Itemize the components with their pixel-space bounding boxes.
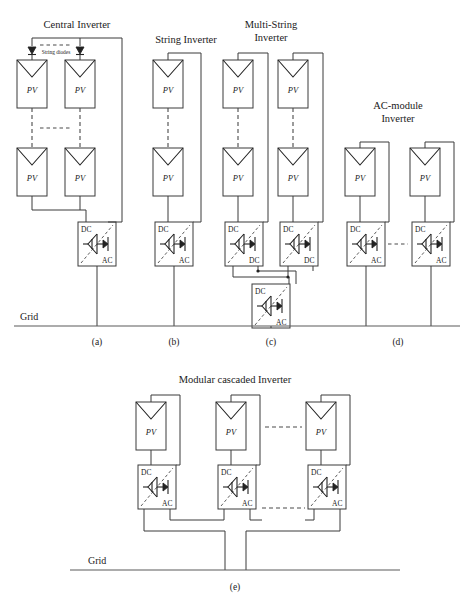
panel-a-pv-2: PV	[65, 60, 95, 108]
panel-c-title-line1: Multi-String	[245, 19, 298, 30]
pv-label: PV	[225, 427, 238, 437]
panel-c-title-line2: Inverter	[254, 32, 288, 43]
panel-b-title: String Inverter	[155, 34, 217, 45]
panel-c-pv-3: PV	[278, 60, 308, 108]
port-dc-label: DC	[350, 225, 360, 234]
pv-label: PV	[232, 85, 245, 95]
panel-e-pv-2: PV	[216, 402, 246, 450]
port-ac-label: AC	[371, 256, 381, 265]
pv-label: PV	[232, 173, 245, 183]
pv-label: PV	[287, 85, 300, 95]
port-dc-label: DC	[81, 225, 91, 234]
panel-b-inverter: DC AC	[155, 222, 193, 266]
port-dc-in-label: DC	[228, 225, 238, 234]
panel-a-central-inverter: Central Inverter String diodes	[17, 19, 122, 348]
port-ac-label: AC	[162, 499, 172, 508]
panel-e-inverter-3: DC AC	[308, 465, 346, 509]
panel-c-multi-string-inverter: Multi-String Inverter PV PV PV	[223, 19, 323, 348]
panel-c-inverter: DC AC	[252, 284, 290, 328]
panel-e-inverter-1: DC AC	[138, 465, 176, 509]
grid-label-bottom: Grid	[88, 555, 106, 566]
port-dc-label: DC	[255, 287, 265, 296]
panel-c-caption: (c)	[266, 337, 277, 348]
pv-inverter-topologies-figure: Central Inverter String diodes	[0, 0, 471, 595]
panel-b-caption: (b)	[168, 337, 179, 348]
port-dc-out-label: DC	[249, 256, 259, 265]
panel-a-pv-1: PV	[17, 60, 47, 108]
panel-d-inverter-2: DC AC	[412, 222, 450, 266]
port-dc-label: DC	[141, 468, 151, 477]
pv-label: PV	[26, 173, 39, 183]
port-dc-in-label: DC	[283, 225, 293, 234]
panel-a-pv-3: PV	[17, 148, 47, 196]
port-ac-label: AC	[102, 256, 112, 265]
panel-e-modular-cascaded-inverter: Modular cascaded Inverter PV DC AC	[70, 374, 400, 593]
pv-label: PV	[26, 85, 39, 95]
pv-label: PV	[315, 427, 328, 437]
string-diodes-label: String diodes	[42, 49, 71, 55]
panel-d-title-line1: AC-module	[373, 100, 423, 111]
panel-e-caption: (e)	[230, 582, 241, 593]
port-dc-label: DC	[415, 225, 425, 234]
panel-c-pv-4: PV	[278, 148, 308, 196]
panel-e-title: Modular cascaded Inverter	[179, 374, 292, 385]
pv-label: PV	[74, 173, 87, 183]
pv-label: PV	[354, 173, 367, 183]
pv-label: PV	[419, 173, 432, 183]
pv-label: PV	[145, 427, 158, 437]
string-diode-right	[76, 47, 84, 60]
panel-b-pv-2: PV	[153, 148, 183, 196]
pv-label: PV	[287, 173, 300, 183]
port-dc-label: DC	[311, 468, 321, 477]
panel-e-pv-3: PV	[306, 402, 336, 450]
port-ac-label: AC	[242, 499, 252, 508]
panel-e-inverter-2: DC AC	[218, 465, 256, 509]
grid-label-top: Grid	[20, 311, 38, 322]
panel-a-caption: (a)	[92, 337, 103, 348]
port-dc-label: DC	[158, 225, 168, 234]
panel-d-pv-2: PV	[410, 148, 440, 196]
pv-label: PV	[162, 85, 175, 95]
panel-a-title: Central Inverter	[44, 19, 111, 30]
panel-b-string-inverter: String Inverter PV PV DC AC (b)	[153, 34, 217, 348]
port-ac-label: AC	[179, 256, 189, 265]
panel-d-ac-module-inverter: AC-module Inverter PV DC AC	[345, 100, 454, 348]
port-dc-label: DC	[221, 468, 231, 477]
topology-diagram: Central Inverter String diodes	[0, 0, 471, 595]
port-ac-label: AC	[332, 499, 342, 508]
panel-b-pv-1: PV	[153, 60, 183, 108]
panel-d-title-line2: Inverter	[381, 113, 415, 124]
pv-label: PV	[74, 85, 87, 95]
port-ac-label: AC	[436, 256, 446, 265]
panel-c-pv-2: PV	[223, 148, 253, 196]
panel-c-pv-1: PV	[223, 60, 253, 108]
panel-e-pv-1: PV	[136, 402, 166, 450]
panel-d-inverter-1: DC AC	[347, 222, 385, 266]
panel-c-dcdc-1: DC DC	[225, 222, 263, 266]
panel-a-inverter: DC AC	[78, 222, 116, 266]
panel-d-pv-1: PV	[345, 148, 375, 196]
string-diode-left	[28, 47, 36, 60]
port-dc-out-label: DC	[304, 256, 314, 265]
panel-a-pv-4: PV	[65, 148, 95, 196]
panel-d-caption: (d)	[392, 337, 403, 348]
pv-label: PV	[162, 173, 175, 183]
panel-c-dcdc-2: DC DC	[280, 222, 318, 266]
